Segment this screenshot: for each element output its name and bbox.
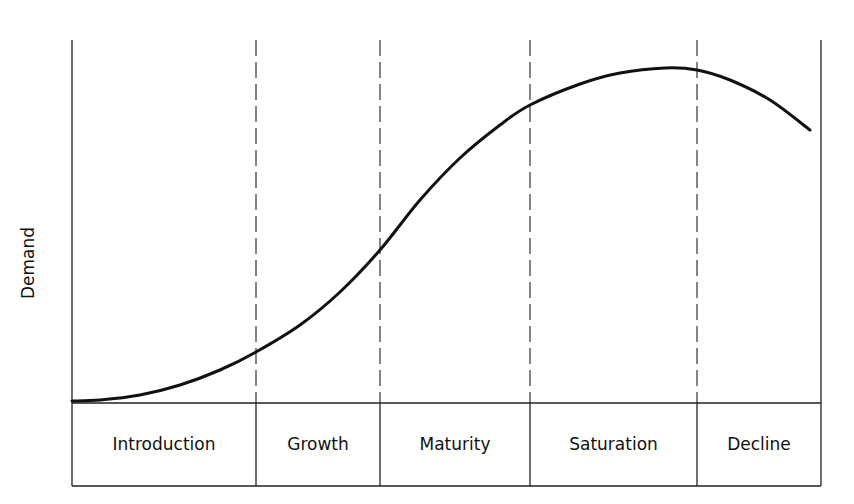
demand-curve bbox=[72, 68, 810, 401]
stage-dividers bbox=[256, 40, 697, 403]
stage-label-maturity: Maturity bbox=[380, 428, 530, 460]
stage-label-introduction: Introduction bbox=[72, 428, 256, 460]
stage-label-saturation: Saturation bbox=[530, 428, 697, 460]
y-axis-label: Demand bbox=[18, 227, 38, 299]
stage-label-decline: Decline bbox=[697, 428, 821, 460]
stage-label-growth: Growth bbox=[256, 428, 380, 460]
